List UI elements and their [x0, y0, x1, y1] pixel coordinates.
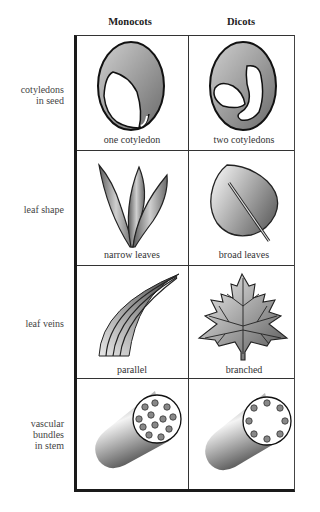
column-header-monocots: Monocots [75, 16, 185, 27]
cell-dicot-cotyledons: two cotyledons [189, 36, 299, 150]
broad-leaf-icon [189, 151, 299, 265]
ring-vascular-bundles-stem-icon [189, 379, 299, 493]
narrow-leaves-icon [77, 151, 187, 265]
caption: narrow leaves [77, 249, 187, 260]
row-label-leaf-shape: leaf shape [24, 204, 64, 215]
cell-dicot-leaf-shape: broad leaves [189, 151, 299, 265]
scattered-vascular-bundles-stem-icon [77, 379, 187, 493]
caption: branched [189, 364, 299, 375]
row-label-vascular-bundles: vascular bundles in stem [31, 418, 64, 451]
cell-monocot-leaf-veins: parallel [77, 266, 187, 380]
caption: broad leaves [189, 249, 299, 260]
seed-two-cotyledons-icon [189, 36, 299, 150]
caption: two cotyledons [189, 134, 299, 145]
branched-veins-maple-leaf-icon [189, 266, 299, 380]
seed-one-cotyledon-icon [77, 36, 187, 150]
cell-monocot-vascular-bundles [77, 379, 187, 493]
cell-monocot-cotyledons: one cotyledon [77, 36, 187, 150]
caption: parallel [77, 364, 187, 375]
row-label-cotyledons: cotyledons in seed [21, 84, 64, 106]
cell-dicot-vascular-bundles [189, 379, 299, 493]
cell-dicot-leaf-veins: branched [189, 266, 299, 380]
row-label-leaf-veins: leaf veins [25, 318, 64, 329]
comparison-table: one cotyledon two cotyledons narrow leav… [74, 35, 295, 492]
caption: one cotyledon [77, 134, 187, 145]
column-header-dicots: Dicots [186, 16, 296, 27]
parallel-veins-icon [77, 266, 187, 380]
cell-monocot-leaf-shape: narrow leaves [77, 151, 187, 265]
